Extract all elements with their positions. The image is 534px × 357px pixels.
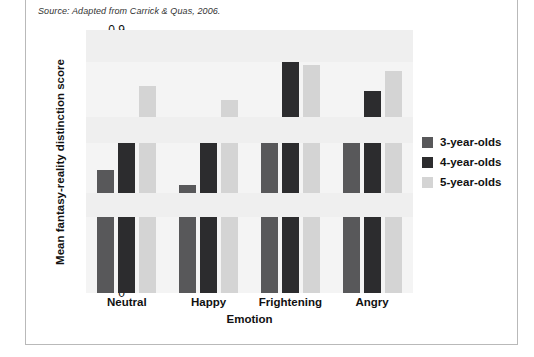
bar-chart: Mean fantasy-reality distinction score 0… xyxy=(26,0,519,345)
plot-area xyxy=(86,30,413,293)
bar xyxy=(97,170,114,293)
y-axis-title: Mean fantasy-reality distinction score xyxy=(54,42,66,282)
x-axis-category-label: Happy xyxy=(191,296,226,308)
bar xyxy=(200,141,217,293)
legend-swatch-icon xyxy=(422,137,433,148)
legend-label: 3-year-olds xyxy=(440,136,501,148)
bar xyxy=(282,62,299,293)
bar xyxy=(385,71,402,293)
legend-item: 5-year-olds xyxy=(422,172,501,192)
x-axis-category-label: Frightening xyxy=(259,296,322,308)
bar xyxy=(303,65,320,293)
legend-swatch-icon xyxy=(422,157,433,168)
x-axis-category-label: Neutral xyxy=(107,296,147,308)
plot-background-band xyxy=(86,117,413,143)
plot-background-band xyxy=(86,193,413,217)
legend-item: 3-year-olds xyxy=(422,132,501,152)
x-axis-category-label: Angry xyxy=(356,296,389,308)
legend-item: 4-year-olds xyxy=(422,152,501,172)
legend-label: 4-year-olds xyxy=(440,156,501,168)
x-axis-title: Emotion xyxy=(86,313,413,325)
legend-swatch-icon xyxy=(422,177,433,188)
legend: 3-year-olds4-year-olds5-year-olds xyxy=(422,132,501,192)
legend-label: 5-year-olds xyxy=(440,176,501,188)
plot-background-band xyxy=(86,30,413,62)
figure-panel: Source: Adapted from Carrick & Quas, 200… xyxy=(25,0,518,345)
